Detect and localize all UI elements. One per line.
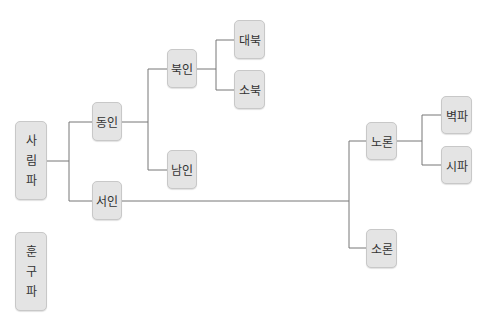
- node-char: 파: [26, 282, 37, 302]
- node-soron: 소론: [366, 229, 397, 268]
- node-char: 훈: [26, 242, 37, 262]
- node-sipa: 시파: [441, 146, 472, 184]
- node-sarimpa: 사 림 파: [15, 121, 47, 200]
- node-hungupa: 훈 구 파: [15, 232, 47, 311]
- node-byeokpa: 벽파: [441, 96, 472, 134]
- node-char: 구: [26, 262, 37, 282]
- node-daebuk: 대북: [234, 20, 265, 59]
- node-seoin: 서인: [92, 181, 122, 220]
- node-dongin: 동인: [92, 102, 122, 141]
- node-char: 림: [26, 151, 37, 171]
- node-namin: 남인: [167, 150, 197, 189]
- node-char: 사: [26, 131, 37, 151]
- node-char: 파: [26, 171, 37, 191]
- node-noron: 노론: [366, 122, 397, 160]
- node-sobuk: 소북: [234, 70, 265, 109]
- node-bugin: 북인: [167, 49, 197, 88]
